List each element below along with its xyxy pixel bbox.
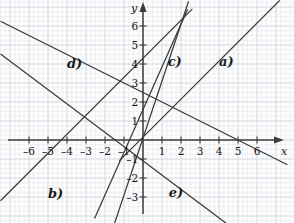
x-tick-label: –2: [99, 146, 111, 157]
coordinate-plane-svg: [0, 0, 294, 223]
x-tick-label: –3: [80, 146, 92, 157]
minor-gridlines: [0, 0, 294, 223]
x-axis-arrow: [274, 136, 284, 143]
y-tick-label: –3: [126, 192, 138, 203]
x-tick-label: 3: [197, 146, 204, 157]
y-tick-label: 3: [132, 78, 139, 89]
y-tick-label: 1: [132, 116, 139, 127]
x-tick-label: 2: [178, 146, 185, 157]
y-axis-label: y: [131, 3, 137, 14]
y-tick-label: –1: [126, 154, 138, 165]
x-axis-label: x: [281, 146, 287, 157]
y-tick-label: 4: [132, 59, 139, 70]
x-tick-label: 6: [254, 146, 261, 157]
series-label-d: d): [67, 57, 82, 70]
series-label-c: c): [168, 55, 182, 68]
series-label-b: b): [48, 187, 63, 200]
x-tick-label: 1: [159, 146, 166, 157]
graph-line-d): [1, 21, 288, 164]
y-tick-label: 5: [132, 40, 139, 51]
x-tick-label: –6: [23, 146, 35, 157]
x-tick-label: 5: [235, 146, 242, 157]
y-tick-label: –2: [126, 173, 138, 184]
graph-figure: –6–5–4–3–2–1123456654321–1–2–3xya)b)c)d)…: [0, 0, 294, 223]
x-tick-label: –5: [42, 146, 54, 157]
x-tick-label: 4: [216, 146, 223, 157]
y-tick-label: 6: [132, 21, 139, 32]
series-label-a: a): [219, 55, 234, 68]
series-label-e: e): [169, 186, 183, 199]
y-tick-label: 2: [132, 97, 139, 108]
x-tick-label: –4: [61, 146, 73, 157]
